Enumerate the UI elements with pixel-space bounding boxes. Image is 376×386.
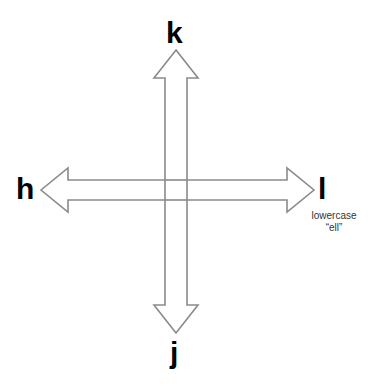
- key-label-l: l: [318, 174, 326, 204]
- key-label-k: k: [166, 18, 183, 48]
- key-label-j: j: [170, 338, 178, 368]
- key-label-h: h: [16, 174, 34, 204]
- note-line-1: lowercase: [308, 210, 360, 222]
- lowercase-ell-note: lowercase “ell”: [308, 210, 360, 234]
- note-line-2: “ell”: [308, 222, 360, 234]
